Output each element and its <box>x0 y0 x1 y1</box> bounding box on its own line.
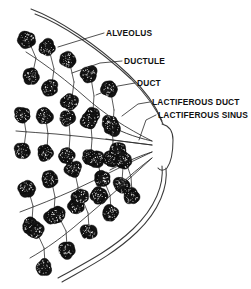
alveolus-cluster <box>60 110 76 126</box>
alveolus-cluster <box>102 115 118 131</box>
alveolus-cluster <box>36 107 54 124</box>
alveolus-cluster <box>14 107 30 123</box>
alveolus-cluster <box>58 148 75 164</box>
breast-anatomy-diagram: ALVEOLUSDUCTULEDUCTLACTIFEROUS DUCTLACTI… <box>0 0 251 289</box>
mammary-lobes <box>14 31 152 276</box>
alveolus-cluster <box>103 204 119 221</box>
alveolus-cluster <box>90 187 108 205</box>
alveolus-cluster <box>100 81 117 98</box>
alveolus-cluster <box>18 180 36 197</box>
ductule-path <box>50 53 54 69</box>
label-lactiferous-sinus: LACTIFEROUS SINUS <box>158 110 248 120</box>
alveolus-cluster <box>59 242 76 260</box>
alveolus-cluster <box>80 112 97 129</box>
alveolus-cluster <box>14 143 30 159</box>
alveolus-cluster <box>124 187 140 204</box>
label-duct: DUCT <box>137 78 162 88</box>
nipple-contour <box>158 124 173 170</box>
label-lactiferous-duct: LACTIFEROUS DUCT <box>152 97 240 107</box>
alveolus-cluster <box>95 170 111 186</box>
lactiferous-duct-path <box>16 131 152 145</box>
alveolus-cluster <box>38 145 54 162</box>
label-alveolus: ALVEOLUS <box>106 28 152 38</box>
label-ductule: DUCTULE <box>124 56 165 66</box>
alveolus-cluster <box>42 170 58 188</box>
alveolus-cluster <box>36 258 52 275</box>
alveolus-cluster <box>71 189 89 205</box>
alveolus-cluster <box>80 66 97 83</box>
leader-line-alveolus <box>58 33 104 47</box>
leader-line-lactiferous-sinus <box>139 115 156 140</box>
alveolus-cluster <box>59 51 76 68</box>
alveolus-cluster <box>39 38 56 56</box>
alveolus-cluster <box>80 225 97 239</box>
alveolus-cluster <box>17 31 35 49</box>
alveolus-cluster <box>41 80 58 97</box>
alveolus-cluster <box>60 93 79 110</box>
leader-line-lactiferous-duct <box>122 102 150 116</box>
alveolus-cluster <box>23 68 40 85</box>
diagram-canvas: ALVEOLUSDUCTULEDUCTLACTIFEROUS DUCTLACTI… <box>0 0 251 289</box>
